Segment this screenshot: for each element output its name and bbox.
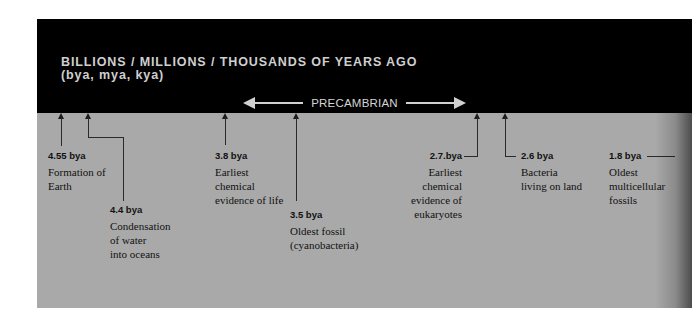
event-2-6-bya: 2.6 bya Bacteria living on land (521, 150, 582, 193)
event-4-4-bya: 4.4 bya Condensation of water into ocean… (110, 204, 171, 261)
precambrian-era-span: PRECAMBRIAN (245, 96, 464, 110)
connector-line (296, 118, 297, 201)
page-edge-shadow (655, 19, 692, 308)
event-date: 4.55 bya (48, 150, 106, 162)
event-4-55-bya: 4.55 bya Formation of Earth (48, 150, 106, 193)
connector-line (477, 118, 478, 156)
event-date: 2.6 bya (521, 150, 582, 162)
event-description: Earliest chemical evidence of life (215, 165, 283, 207)
event-description: Formation of Earth (48, 165, 106, 193)
event-2-7-bya: 2.7.bya Earliest chemical evidence of eu… (411, 150, 462, 221)
event-description: Earliest chemical evidence of eukaryotes (411, 165, 462, 221)
connector-line (225, 118, 226, 145)
event-description: Oldest fossil (cyanobacteria) (290, 224, 358, 252)
connector-line (88, 137, 124, 138)
left-arrow-icon (245, 102, 303, 104)
event-description: Bacteria living on land (521, 165, 582, 193)
timeline-subtitle: (bya, mya, kya) (61, 69, 164, 82)
connector-line (505, 118, 506, 156)
right-arrow-icon (406, 102, 464, 104)
event-date: 3.8 bya (215, 150, 283, 162)
event-date: 4.4 bya (110, 204, 171, 216)
connector-line (464, 156, 478, 157)
connector-line (123, 137, 124, 201)
event-3-5-bya: 3.5 bya Oldest fossil (cyanobacteria) (290, 209, 358, 252)
connector-line (88, 118, 89, 137)
connector-line (61, 118, 62, 146)
event-3-8-bya: 3.8 bya Earliest chemical evidence of li… (215, 150, 283, 207)
event-date: 3.5 bya (290, 209, 358, 221)
era-label: PRECAMBRIAN (303, 97, 406, 109)
connector-line (505, 156, 516, 157)
event-description: Condensation of water into oceans (110, 219, 171, 261)
event-date: 2.7.bya (411, 150, 462, 162)
